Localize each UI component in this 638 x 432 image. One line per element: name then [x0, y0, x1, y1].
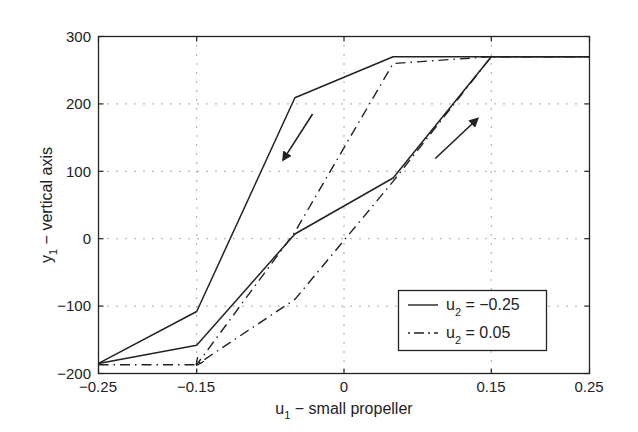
x-tick-label: −0.15 — [177, 378, 215, 395]
x-tick-label: −0.25 — [79, 378, 117, 395]
chart-figure: 300 200 100 0 −100 −200 −0.25 −0.15 0 0.… — [0, 0, 638, 432]
chart-svg: 300 200 100 0 −100 −200 −0.25 −0.15 0 0.… — [0, 0, 638, 432]
y-tick-label: 0 — [83, 230, 91, 247]
x-tick-label: 0.15 — [476, 378, 505, 395]
y-tick-label: 300 — [66, 28, 91, 45]
y-tick-label: −100 — [57, 297, 91, 314]
y-tick-labels: 300 200 100 0 −100 −200 — [57, 28, 91, 382]
y-tick-label: 200 — [66, 95, 91, 112]
legend: u2 = −0.25 u2 = 0.05 — [399, 291, 547, 351]
arrow-icon — [435, 119, 477, 159]
arrow-icon — [283, 114, 312, 160]
x-tick-labels: −0.25 −0.15 0 0.15 0.25 — [79, 378, 604, 395]
y-tick-label: 100 — [66, 163, 91, 180]
x-axis-label: u1 − small propeller — [275, 400, 413, 421]
y-axis-label: y1 − vertical axis — [38, 147, 59, 263]
direction-arrows — [283, 114, 477, 160]
x-tick-label: 0.25 — [574, 378, 603, 395]
x-tick-label: 0 — [340, 378, 348, 395]
